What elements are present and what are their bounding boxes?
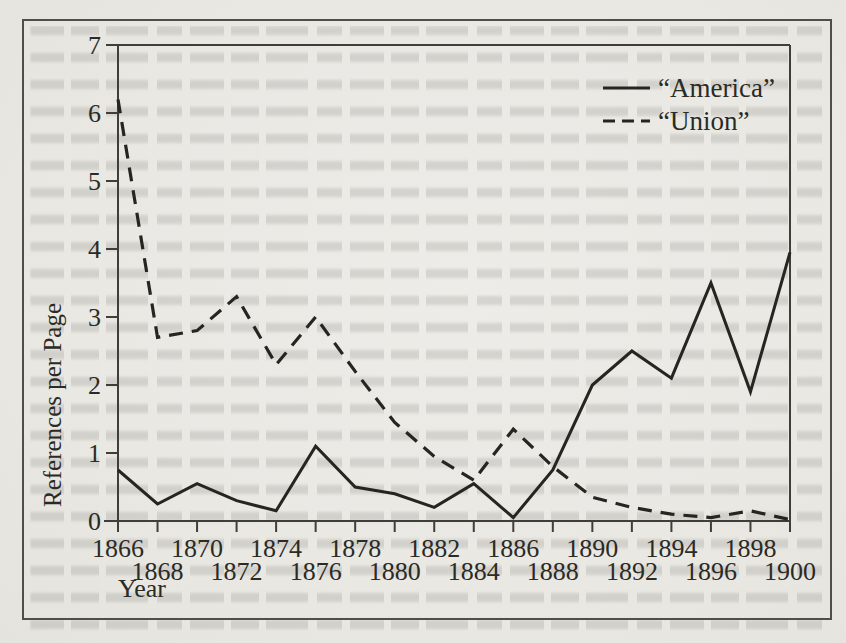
y-tick-label: 7 [88, 31, 101, 60]
x-axis-title: Year [118, 574, 166, 603]
x-tick-label: 1900 [764, 557, 816, 586]
y-tick-label: 3 [88, 303, 101, 332]
y-tick-label: 6 [88, 99, 101, 128]
y-tick-label: 0 [88, 507, 101, 536]
y-tick-label: 4 [88, 235, 101, 264]
y-tick-label: 2 [88, 371, 101, 400]
y-axis-title: References per Page [39, 303, 66, 507]
legend-union-label: “Union” [658, 106, 749, 136]
y-tick-label: 1 [88, 439, 101, 468]
union-line [118, 99, 790, 519]
line-chart: 0123456718661868187018721874187618781880… [0, 0, 846, 643]
y-tick-label: 5 [88, 167, 101, 196]
legend-america-label: “America” [658, 73, 775, 103]
america-line [118, 252, 790, 517]
